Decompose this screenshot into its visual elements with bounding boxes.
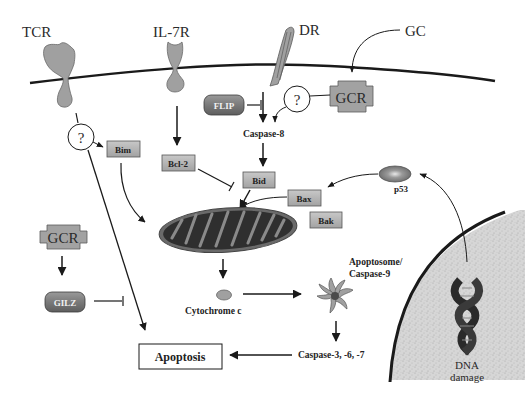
cytochrome-c-label: Cytochrome c [185,306,242,316]
apoptosome-icon [317,278,353,313]
flip-node: FLIP [204,95,244,115]
dr-receptor-icon [270,27,294,86]
apoptosome-label-line1: Apoptosome/ [349,257,403,267]
bim-node: Bim [107,141,140,157]
apoptosis-node: Apoptosis [139,344,222,369]
bak-node: Bak [310,212,342,228]
tcr-receptor-icon [44,43,75,107]
dna-damage-label-line2: damage [450,371,484,383]
apoptosis-pathway-diagram: TCR IL-7R DR GC GCR ? FLIP Caspase-8 [0,0,525,401]
cytochrome-c-icon [217,290,232,300]
caspase8-label: Caspase-8 [243,129,284,139]
svg-text:FLIP: FLIP [214,101,235,111]
cell-membrane [30,64,495,83]
svg-text:GILZ: GILZ [54,298,77,308]
question-to-bim-arrow [93,142,103,147]
p53-node: p53 [379,166,411,194]
p53-to-bax-arrow [328,174,378,187]
gcr-left-receptor: GCR [40,225,87,249]
svg-text:Bcl-2: Bcl-2 [168,159,188,169]
svg-text:Bim: Bim [115,145,132,155]
il7r-label: IL-7R [153,24,190,40]
question-node-right: ? [284,86,310,112]
bax-node: Bax [288,190,321,206]
mitochondrion-icon [158,203,299,257]
apoptosome-label-line2: Caspase-9 [349,269,390,279]
gc-to-gcr-arrow [352,30,400,72]
svg-text:?: ? [78,130,85,146]
tcr-to-apoptosis-arrow [88,150,145,330]
tcr-to-question-line [76,113,78,123]
bid-node: Bid [243,172,275,188]
tcr-label: TCR [22,24,51,40]
bim-to-mito-arrow [121,163,145,222]
svg-text:p53: p53 [394,184,409,194]
svg-text:Apoptosis: Apoptosis [155,350,206,364]
bcl2-inhibit-bar [229,182,234,191]
bcl2-inhibits-line [198,169,232,187]
gcr-top-receptor: GCR [330,81,373,112]
dna-damage-label-line1: DNA [455,359,479,371]
bax-to-mito-arrow [240,197,287,208]
bcl2-node: Bcl-2 [162,155,195,171]
svg-text:Bak: Bak [318,216,334,226]
svg-text:Bax: Bax [296,194,312,204]
svg-text:?: ? [294,92,301,108]
question-node-left: ? [68,124,94,150]
svg-text:GCR: GCR [48,230,79,246]
gcr-to-question-line [310,95,330,96]
svg-text:GCR: GCR [336,90,367,106]
dr-label: DR [299,22,320,38]
svg-text:Bid: Bid [252,176,266,186]
gilz-node: GILZ [45,292,85,312]
caspase367-label: Caspase-3, -6, -7 [298,350,365,360]
question-to-caspase8-arrow [275,107,286,122]
gc-label: GC [405,23,426,39]
